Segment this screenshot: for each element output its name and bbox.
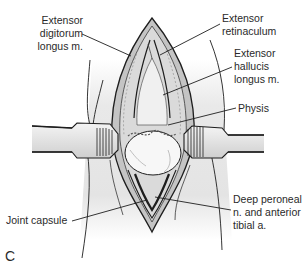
label-physis: Physis <box>238 102 269 115</box>
right-retractor <box>184 126 264 158</box>
surgical-illustration: Extensor digitorum longus m. Extensor re… <box>0 0 307 268</box>
leader-edl <box>82 34 131 56</box>
label-joint-capsule: Joint capsule <box>6 214 67 227</box>
label-extensor-hallucis-longus: Extensor hallucis longus m. <box>234 47 280 86</box>
leader-retinaculum <box>160 24 220 55</box>
label-deep-peroneal-nerve-anterior-tibial-artery: Deep peroneal n. and anterior tibial a. <box>233 193 302 232</box>
label-extensor-retinaculum: Extensor retinaculum <box>222 12 276 38</box>
panel-letter: C <box>5 248 15 264</box>
talar-dome <box>125 131 181 175</box>
label-extensor-digitorum-longus: Extensor digitorum longus m. <box>35 14 83 53</box>
left-retractor <box>32 123 118 158</box>
